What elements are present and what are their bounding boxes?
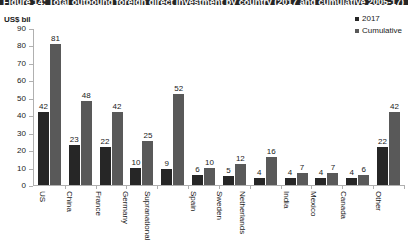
bar-rect [161, 169, 172, 185]
bar-2017[interactable]: 10 [130, 168, 141, 185]
bar-value-label: 22 [101, 137, 110, 146]
bar-rect [204, 168, 215, 185]
bar-value-label: 42 [39, 102, 48, 111]
bar-cumulative[interactable]: 81 [50, 44, 61, 185]
bar-rect [389, 112, 400, 185]
y-axis-tick-label: 0 [22, 181, 26, 190]
bar-rect [266, 157, 277, 185]
bar-group: 2242 [96, 29, 127, 185]
chart-title-banner: Figure 14: Total outbound foreign direct… [0, 0, 408, 5]
bar-cumulative[interactable]: 52 [173, 94, 184, 185]
chart-title: Figure 14: Total outbound foreign direct… [0, 0, 408, 5]
x-axis-category-cell: US [34, 191, 65, 247]
legend-swatch-2017 [355, 17, 359, 21]
x-axis-category-label: Germany [120, 191, 129, 224]
bar-value-label: 4 [349, 168, 353, 177]
x-axis-tick [342, 185, 343, 189]
bar-rect [173, 94, 184, 185]
bar-rect [100, 147, 111, 185]
x-axis-category-label: Canada [339, 191, 348, 219]
bar-cumulative[interactable]: 7 [297, 173, 308, 185]
bar-value-label: 7 [331, 163, 335, 172]
bar-group: 46 [342, 29, 373, 185]
x-axis-category-label: Mexico [309, 191, 318, 216]
bar-value-label: 22 [378, 137, 387, 146]
y-axis-tick-label: 30 [17, 129, 26, 138]
bar-2017[interactable]: 4 [315, 178, 326, 185]
bar-cumulative[interactable]: 16 [266, 157, 277, 185]
bar-value-label: 4 [257, 168, 261, 177]
bar-cumulative[interactable]: 12 [235, 164, 246, 185]
x-axis-tick [126, 185, 127, 189]
bar-rect [130, 168, 141, 185]
y-axis-tick: 50 [29, 99, 33, 100]
bar-2017[interactable]: 23 [69, 145, 80, 185]
y-axis-tick: 80 [29, 46, 33, 47]
y-axis-tick-label: 90 [17, 24, 26, 33]
y-axis-tick: 40 [29, 116, 33, 117]
bar-2017[interactable]: 9 [161, 169, 172, 185]
bar-2017[interactable]: 4 [254, 178, 265, 185]
bar-group: 610 [188, 29, 219, 185]
bar-value-label: 48 [82, 91, 91, 100]
bar-2017[interactable]: 6 [192, 175, 203, 185]
bar-rect [223, 176, 234, 185]
y-axis-tick: 30 [29, 134, 33, 135]
bar-2017[interactable]: 5 [223, 176, 234, 185]
x-axis-tick [65, 185, 66, 189]
x-axis-tick [96, 185, 97, 189]
x-axis-tick [250, 185, 251, 189]
x-axis-category-cell: Mexico [311, 191, 342, 247]
bar-value-label: 5 [226, 166, 230, 175]
bar-cumulative[interactable]: 42 [112, 112, 123, 185]
x-axis-tick [404, 185, 405, 189]
bar-rect [38, 112, 49, 185]
bar-value-label: 25 [143, 131, 152, 140]
bar-value-label: 6 [361, 165, 365, 174]
bar-rect [377, 147, 388, 185]
x-axis-category-cell: Supranational [157, 191, 188, 247]
y-axis-tick-label: 60 [17, 76, 26, 85]
bar-value-label: 4 [319, 168, 323, 177]
bar-group: 2348 [65, 29, 96, 185]
bar-value-label: 42 [390, 102, 399, 111]
bar-cumulative[interactable]: 42 [389, 112, 400, 185]
x-axis-category-label: Netherlands [239, 191, 248, 234]
bar-value-label: 9 [164, 159, 168, 168]
legend-label-2017: 2017 [362, 14, 380, 23]
bar-cumulative[interactable]: 25 [142, 141, 153, 185]
bar-2017[interactable]: 22 [377, 147, 388, 185]
x-axis-category-cell: Netherlands [250, 191, 281, 247]
bar-2017[interactable]: 4 [285, 178, 296, 185]
bar-rect [297, 173, 308, 185]
y-axis-tick-label: 80 [17, 41, 26, 50]
bar-cumulative[interactable]: 48 [81, 101, 92, 185]
bar-group: 1025 [126, 29, 157, 185]
bar-rect [192, 175, 203, 185]
bar-group: 416 [250, 29, 281, 185]
bar-cumulative[interactable]: 7 [327, 173, 338, 185]
x-axis-category-cell: China [65, 191, 96, 247]
x-axis-tick [311, 185, 312, 189]
bar-group: 47 [281, 29, 312, 185]
x-axis-category-cell: Germany [126, 191, 157, 247]
bar-2017[interactable]: 42 [38, 112, 49, 185]
bar-cumulative[interactable]: 10 [204, 168, 215, 185]
y-axis-tick: 70 [29, 64, 33, 65]
plot-area: 0102030405060708090 42812348224210259526… [33, 29, 404, 186]
bar-rect [235, 164, 246, 185]
bar-2017[interactable]: 4 [346, 178, 357, 185]
bar-value-label: 6 [195, 165, 199, 174]
bar-rect [81, 101, 92, 185]
x-axis-category-label: US [39, 191, 48, 202]
x-axis-tick [281, 185, 282, 189]
bar-rect [254, 178, 265, 185]
bar-2017[interactable]: 22 [100, 147, 111, 185]
x-axis-category-cell: Canada [342, 191, 373, 247]
x-axis-category-cell: India [281, 191, 312, 247]
bar-value-label: 16 [267, 147, 276, 156]
x-axis-tick [188, 185, 189, 189]
bar-rect [327, 173, 338, 185]
bar-cumulative[interactable]: 6 [358, 175, 369, 185]
y-axis-tick-label: 40 [17, 111, 26, 120]
